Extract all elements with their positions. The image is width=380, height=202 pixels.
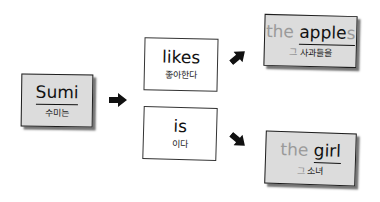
object-article-ko: 그 (289, 47, 297, 57)
arrow-right-icon (109, 93, 127, 107)
object-translation-line: 그 소녀 (297, 165, 324, 177)
verb-translation: 이다 (172, 139, 188, 150)
arrow-down-right-icon (227, 129, 250, 151)
object-translation: 사과들을 (300, 48, 332, 59)
object-phrase: the apples (266, 22, 356, 46)
object-article: the (280, 139, 309, 160)
object-noun: girl (313, 141, 341, 164)
verb-translation: 좋아한다 (165, 70, 197, 82)
verb-box-likes: likes 좋아한다 (143, 37, 218, 92)
subject-word: Sumi (36, 82, 79, 105)
subject-translation: 수미는 (45, 107, 69, 118)
verb-word: likes (162, 48, 200, 68)
object-box-girl: the girl 그 소녀 (264, 131, 357, 187)
object-translation-line: 그 사과들을 (289, 47, 332, 59)
arrow-up-right-icon (227, 46, 250, 68)
verb-box-is: is 이다 (142, 106, 217, 161)
object-phrase: the girl (280, 140, 341, 164)
object-noun-main: apple (299, 22, 347, 43)
object-noun-suffix: s (346, 23, 355, 43)
object-noun-main: girl (313, 140, 341, 161)
object-article: the (266, 21, 294, 42)
object-noun: apples (299, 23, 356, 46)
object-box-apples: the apples 그 사과들을 (263, 14, 357, 68)
object-translation: 소녀 (307, 165, 323, 175)
verb-word: is (173, 117, 187, 136)
subject-box-sumi: Sumi 수미는 (21, 73, 94, 127)
object-article-ko: 그 (297, 165, 305, 175)
